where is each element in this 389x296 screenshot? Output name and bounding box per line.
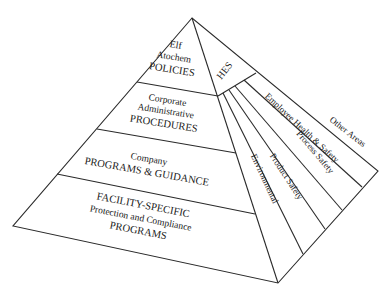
hes-label: HES [214, 59, 234, 81]
tier-facility-specific: FACILITY-SPECIFIC Protection and Complia… [87, 190, 196, 246]
tier-policies-line1: Elf [169, 38, 183, 51]
pyramid-front-edge [192, 18, 278, 283]
tier-policies: Elf Atochem POLICIES [148, 36, 199, 79]
tier-procedures: Corporate Administrative PROCEDURES [129, 90, 202, 134]
sector-other-areas: Other Areas [328, 114, 369, 149]
tier-programs-guidance: Company PROGRAMS & GUIDANCE [84, 143, 212, 188]
divider-procedures [97, 129, 236, 153]
pyramid-diagram: Elf Atochem POLICIES Corporate Administr… [0, 0, 389, 296]
